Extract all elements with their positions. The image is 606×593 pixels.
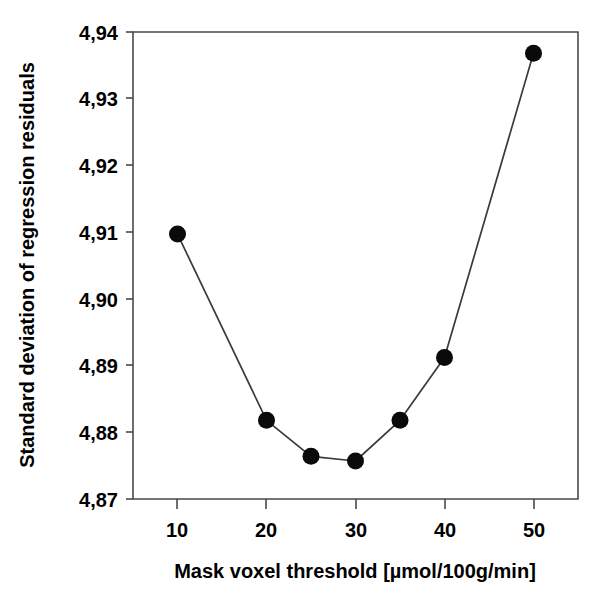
x-tick-label-50: 50	[523, 519, 545, 541]
series-markers	[169, 45, 542, 470]
x-tick-label-20: 20	[255, 519, 277, 541]
y-tick-label-4-92: 4,92	[79, 155, 118, 177]
y-tick-label-4-93: 4,93	[79, 88, 118, 110]
data-point-40	[436, 349, 453, 366]
figure-container: 4,94 4,93 4,92 4,91 4,90 4,89 4,88 4,87 …	[0, 0, 606, 593]
y-axis-ticks	[126, 32, 133, 499]
y-axis-title: Standard deviation of regression residua…	[16, 62, 38, 468]
y-tick-label-4-87: 4,87	[79, 489, 118, 511]
data-point-35	[392, 412, 409, 429]
line-chart: 4,94 4,93 4,92 4,91 4,90 4,89 4,88 4,87 …	[0, 0, 606, 593]
data-point-25	[303, 448, 320, 465]
data-series-group	[169, 45, 542, 470]
x-tick-label-10: 10	[166, 519, 188, 541]
y-tick-label-4-88: 4,88	[79, 422, 118, 444]
x-axis-ticks	[177, 499, 534, 509]
axes-frame	[133, 32, 578, 499]
data-point-30	[347, 453, 364, 470]
x-tick-label-40: 40	[434, 519, 456, 541]
data-point-10	[169, 226, 186, 243]
x-axis-tick-labels: 10 20 30 40 50	[166, 519, 545, 541]
y-tick-label-4-91: 4,91	[79, 222, 118, 244]
y-axis-tick-labels: 4,94 4,93 4,92 4,91 4,90 4,89 4,88 4,87	[79, 22, 119, 511]
y-tick-label-4-90: 4,90	[79, 289, 118, 311]
y-tick-label-4-89: 4,89	[79, 355, 118, 377]
series-line-residual-sd	[178, 53, 534, 461]
y-tick-label-4-94: 4,94	[79, 22, 119, 44]
x-axis-title: Mask voxel threshold [µmol/100g/min]	[174, 560, 536, 582]
data-point-50	[525, 45, 542, 62]
x-tick-label-30: 30	[345, 519, 367, 541]
plot-frame	[133, 32, 578, 499]
data-point-20	[258, 412, 275, 429]
